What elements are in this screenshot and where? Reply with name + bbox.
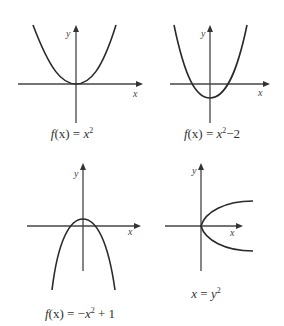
x-axis-label: x xyxy=(257,87,263,98)
graph-panel-3: y x xyxy=(27,163,141,290)
parabola-curve xyxy=(33,25,116,84)
graphs-canvas: y x y x y x xyxy=(0,0,284,326)
y-axis-label: y xyxy=(65,28,71,39)
x-axis-arrow-icon xyxy=(263,81,270,87)
graph-panel-2: y x xyxy=(170,25,270,123)
x-axis-arrow-icon xyxy=(136,81,143,87)
equation-label-1: f(x) = x2 xyxy=(51,126,93,142)
equation-label-2: f(x) = x2−2 xyxy=(184,126,240,142)
y-axis-arrow-icon xyxy=(207,25,213,32)
y-axis-label: y xyxy=(191,165,197,176)
graph-panel-1: y x xyxy=(18,25,143,123)
x-axis-label: x xyxy=(132,88,138,99)
exponent: 2 xyxy=(89,126,93,135)
equation-label-4: x = y2 xyxy=(191,286,220,302)
x-axis-label: x xyxy=(127,226,133,237)
y-axis-label: y xyxy=(73,168,79,179)
y-axis-arrow-icon xyxy=(80,163,86,170)
x-axis-arrow-icon xyxy=(134,223,141,229)
x-axis-label: x xyxy=(229,227,235,238)
y-axis-arrow-icon xyxy=(73,25,79,32)
y-axis-label: y xyxy=(200,28,206,39)
exponent: 2 xyxy=(217,286,221,295)
x-axis-arrow-icon xyxy=(236,223,243,229)
graph-panel-4: y x xyxy=(165,163,253,271)
constant-term: −2 xyxy=(226,126,240,141)
equation-label-3: f(x) = −x2 + 1 xyxy=(45,306,115,322)
function-argument: (x) = − xyxy=(49,306,85,321)
constant-term: + 1 xyxy=(95,306,115,321)
y-axis-arrow-icon xyxy=(198,163,204,170)
figure-parabola-graphs: y x y x y x xyxy=(0,0,284,326)
function-argument: (x) = xyxy=(54,126,83,141)
function-argument: (x) = xyxy=(188,126,217,141)
equals-sign: = xyxy=(197,286,211,301)
